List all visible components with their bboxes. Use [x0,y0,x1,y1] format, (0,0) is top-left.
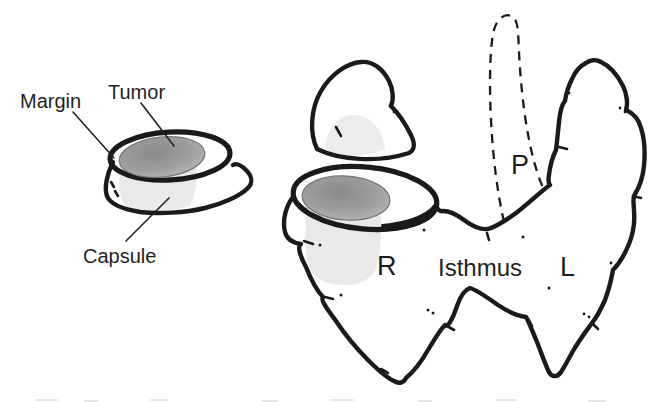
pyramidal-lobe-label: P [511,150,529,180]
diagram-svg: Margin Tumor Capsule [0,0,664,402]
left-lobe-label: L [560,252,575,282]
thyroid-diagram-figure: Margin Tumor Capsule [0,0,664,402]
tumor-label: Tumor [108,81,165,103]
thyroid-group: P R Isthmus L [284,15,645,382]
isthmus-label: Isthmus [438,254,522,281]
capsule-label: Capsule [83,245,156,267]
right-lobe-label: R [377,251,397,281]
margin-leader-line [73,112,114,158]
margin-label: Margin [20,90,81,112]
specimen-group: Margin Tumor Capsule [20,81,251,267]
